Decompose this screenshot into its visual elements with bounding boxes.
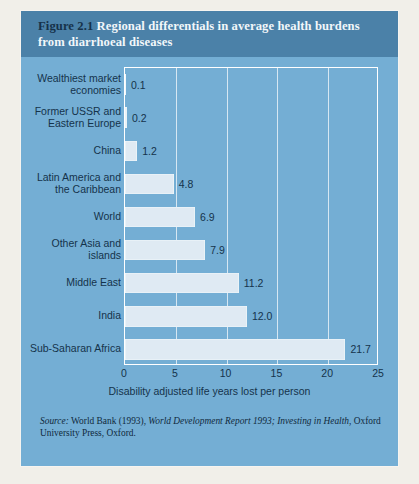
bar-row: 1.2	[125, 134, 377, 167]
bar-row: 4.8	[125, 167, 377, 200]
bar-row: 12.0	[125, 300, 377, 333]
category-label: Wealthiest market economies	[21, 72, 121, 96]
bar-value-label: 1.2	[142, 145, 157, 157]
bar	[125, 339, 345, 360]
bar-value-label: 11.2	[244, 277, 264, 289]
category-label: Other Asia and islands	[21, 237, 121, 261]
bar-row: 21.7	[125, 333, 377, 366]
bar-row: 7.9	[125, 234, 377, 267]
x-tick-label: 20	[321, 367, 333, 379]
bar-value-label: 12.0	[252, 310, 272, 322]
bar-value-label: 21.7	[350, 343, 370, 355]
x-axis-ticks: 0510152025	[124, 367, 378, 383]
category-label: India	[21, 309, 121, 321]
figure-caption: Figure 2.1 Regional differentials in ave…	[38, 18, 383, 50]
figure-card: Figure 2.1 Regional differentials in ave…	[21, 11, 398, 466]
category-label: China	[21, 144, 121, 156]
x-tick-label: 15	[271, 367, 283, 379]
bar-row: 11.2	[125, 267, 377, 300]
bar	[125, 107, 127, 128]
category-label: Sub-Saharan Africa	[21, 342, 121, 354]
bar-row: 6.9	[125, 200, 377, 233]
x-tick-label: 10	[220, 367, 232, 379]
category-label: Middle East	[21, 276, 121, 288]
bar-row: 0.2	[125, 101, 377, 134]
category-axis-labels: Wealthiest market economiesFormer USSR a…	[21, 67, 121, 365]
x-axis-title: Disability adjusted life years lost per …	[21, 385, 398, 397]
category-label: World	[21, 210, 121, 222]
bar	[125, 174, 174, 195]
bar	[125, 141, 137, 162]
bar	[125, 207, 195, 228]
bar-value-label: 0.1	[131, 79, 146, 91]
x-tick-label: 5	[172, 367, 178, 379]
bar-value-label: 0.2	[132, 112, 147, 124]
source-text-1: World Bank (1993),	[69, 416, 149, 426]
bar	[125, 240, 205, 261]
plot-frame: 0.10.21.24.86.97.911.212.021.7	[124, 67, 378, 365]
bar-row: 0.1	[125, 68, 377, 101]
page-background: Figure 2.1 Regional differentials in ave…	[0, 0, 419, 484]
bar	[125, 306, 247, 327]
source-citation: World Development Report 1993; Investing…	[148, 416, 349, 426]
bar	[125, 273, 239, 294]
category-label: Latin America and the Caribbean	[21, 171, 121, 195]
x-tick-label: 0	[121, 367, 127, 379]
x-tick-label: 25	[372, 367, 384, 379]
chart-area: Wealthiest market economiesFormer USSR a…	[21, 57, 398, 402]
bar-value-label: 4.8	[179, 178, 194, 190]
bar-value-label: 6.9	[200, 211, 215, 223]
bar	[125, 74, 126, 95]
figure-number: Figure 2.1	[38, 19, 93, 33]
source-note: Source: World Bank (1993), World Develop…	[40, 415, 385, 439]
bar-value-label: 7.9	[210, 244, 225, 256]
source-label: Source:	[40, 416, 69, 426]
category-label: Former USSR and Eastern Europe	[21, 105, 121, 129]
figure-header-band: Figure 2.1 Regional differentials in ave…	[21, 11, 398, 57]
